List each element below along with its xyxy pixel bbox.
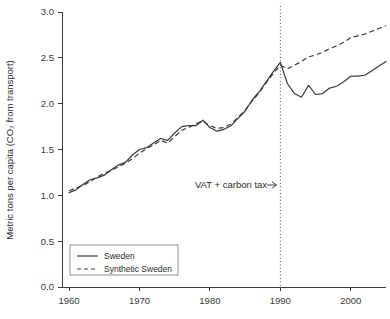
y-tick-label: 3.0 — [41, 6, 54, 17]
y-axis-ticks: 0.00.51.01.52.02.53.0 — [41, 6, 62, 292]
chart-legend[interactable]: SwedenSynthetic Sweden — [70, 245, 178, 275]
annotation-label: VAT + carbon tax — [195, 179, 267, 190]
x-axis-ticks: 19601970198019902000 — [58, 287, 361, 306]
y-tick-label: 2.0 — [41, 98, 54, 109]
y-tick-label: 1.5 — [41, 144, 54, 155]
series-line-sweden — [69, 62, 386, 193]
x-tick-label: 1960 — [58, 295, 79, 306]
y-tick-label: 0.0 — [41, 281, 54, 292]
x-tick-label: 1980 — [199, 295, 220, 306]
legend-label-sweden[interactable]: Sweden — [104, 251, 135, 261]
x-tick-label: 1970 — [129, 295, 150, 306]
y-tick-label: 2.5 — [41, 52, 54, 63]
line-chart-canvas: 0.00.51.01.52.02.53.0 196019701980199020… — [0, 0, 390, 319]
x-tick-label: 1990 — [270, 295, 291, 306]
annotation-vat-carbon-tax: VAT + carbon tax — [195, 179, 276, 190]
x-tick-label: 2000 — [340, 295, 361, 306]
y-tick-label: 1.0 — [41, 190, 54, 201]
data-series — [69, 26, 386, 193]
y-axis-label: Metric tons per capita (CO₂ from transpo… — [4, 60, 15, 240]
y-tick-label: 0.5 — [41, 236, 54, 247]
chart-figure: 0.00.51.01.52.02.53.0 196019701980199020… — [0, 0, 390, 319]
legend-label-synthetic-sweden[interactable]: Synthetic Sweden — [104, 264, 172, 274]
